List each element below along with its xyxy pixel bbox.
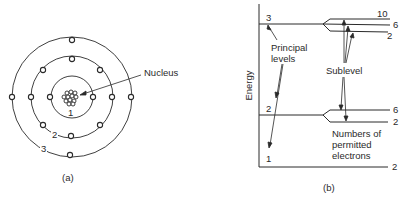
level-3-sublevel-d: 10 [377, 8, 388, 19]
level-2-fork [323, 110, 330, 122]
permitted-label-line1: Numbers of [332, 128, 381, 139]
level-3-sublevel-s: 2 [387, 30, 392, 41]
permitted-label-line2: permitted [332, 139, 372, 150]
level-1-number: 1 [266, 153, 271, 164]
level-2-sublevel-s: 2 [393, 116, 398, 127]
nucleus [62, 90, 78, 106]
caption-b: (b) [323, 182, 335, 193]
sublevel-label: Sublevel [326, 65, 362, 76]
caption-a: (a) [62, 172, 74, 183]
permitted-label-line3: electrons [332, 150, 371, 161]
energy-axis-label: Energy [243, 70, 254, 100]
level-1-sublevel-s: 2 [392, 161, 397, 172]
level-3-number: 3 [266, 12, 271, 23]
shell-1-label: 1 [68, 107, 73, 118]
shell-3-label: 3 [41, 143, 46, 154]
level-3-sublevel-p: 6 [393, 19, 398, 30]
level-2-sublevel-p: 6 [393, 104, 398, 115]
principal-levels-label-line2: levels [271, 53, 295, 64]
level-2-number: 2 [266, 103, 271, 114]
atom-structure-diagram [0, 0, 403, 202]
shell-2-label: 2 [52, 129, 57, 140]
nucleus-label: Nucleus [144, 67, 178, 78]
level-3-fork [323, 19, 330, 31]
principal-levels-label-line1: Principal [271, 42, 307, 53]
